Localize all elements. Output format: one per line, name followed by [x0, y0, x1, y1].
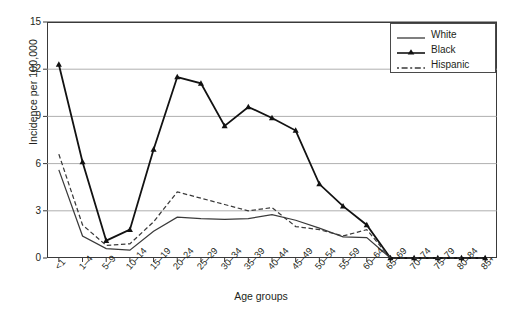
data-point-marker [79, 159, 85, 165]
x-axis-title: Age groups [0, 290, 522, 302]
legend-swatch-hispanic-icon [396, 59, 426, 70]
legend-label-white: White [431, 29, 457, 40]
data-point-marker [245, 104, 251, 110]
chart-container: 03691215 <11–45–910–1415–1920–2425–2930–… [0, 0, 522, 318]
legend-label-hispanic: Hispanic [431, 59, 469, 70]
series-line-hispanic [59, 154, 485, 258]
legend-swatch-black-icon [396, 44, 426, 55]
legend-item-black[interactable]: Black [391, 42, 495, 57]
data-series-layer [56, 61, 488, 260]
series-line-black [59, 64, 485, 258]
legend-label-black: Black [431, 44, 455, 55]
data-point-marker [127, 226, 133, 232]
data-point-marker [174, 74, 180, 80]
legend-swatch-white-icon [396, 29, 426, 40]
legend-item-white[interactable]: White [391, 27, 495, 42]
data-point-marker [151, 146, 157, 152]
data-point-marker [56, 61, 62, 67]
legend-item-hispanic[interactable]: Hispanic [391, 57, 495, 72]
legend: White Black Hispanic [390, 23, 496, 73]
y-tick-label: 0 [11, 253, 41, 263]
y-axis-title: Incidence per 100,000 [27, 7, 39, 177]
data-point-marker [316, 181, 322, 187]
y-tick-label: 3 [11, 206, 41, 216]
